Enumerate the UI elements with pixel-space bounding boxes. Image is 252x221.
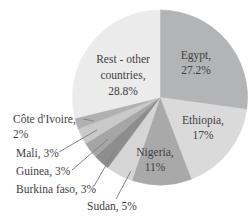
slice-label-line: 17% [161,128,245,143]
slice-label-nigeria: Nigeria, 11% [115,145,195,175]
slice-label-line: Ethiopia, [161,113,245,128]
slice-label-guinea: Guinea, 3% [16,164,70,179]
slice-label-egypt: Egypt, 27.2% [156,48,236,78]
slice-label-sudan: Sudan, 5% [87,199,137,214]
slice-label-ethiopia: Ethiopia, 17% [161,113,245,143]
slice-label-line: 11% [115,160,195,175]
slice-label-mali: Mali, 3% [16,146,59,161]
slice-label-line: 2% [13,127,76,142]
pie-chart-figure: Rest - other countries, 28.8% Egypt, 27.… [0,0,252,221]
slice-label-line: 28.8% [73,83,173,99]
slice-label-line: Egypt, [156,48,236,63]
slice-label-line: Côte d'Ivoire, [13,112,76,127]
slice-label-line: 27.2% [156,63,236,78]
slice-label-line: Nigeria, [115,145,195,160]
slice-label-burkina-faso: Burkina faso, 3% [16,182,96,197]
slice-label-cote-divoire: Côte d'Ivoire, 2% [13,112,76,142]
